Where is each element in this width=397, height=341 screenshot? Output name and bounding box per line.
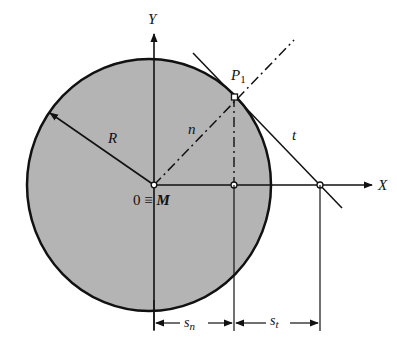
sn-label: sn bbox=[184, 315, 195, 332]
y-axis-label: Y bbox=[148, 11, 158, 27]
point-label: P1 bbox=[230, 67, 246, 85]
origin-marker bbox=[151, 182, 157, 188]
tangent-label: t bbox=[292, 127, 297, 143]
radius-label: R bbox=[107, 130, 117, 146]
x-axis-label: X bbox=[377, 177, 388, 193]
st-label: st bbox=[270, 313, 279, 330]
circle-normal-tangent-diagram: Y X R n t P1 0 ≡ M sn st bbox=[0, 0, 397, 341]
normal-label: n bbox=[188, 121, 196, 137]
point-p1-marker bbox=[232, 94, 238, 100]
origin-label: 0 ≡ M bbox=[133, 192, 170, 208]
